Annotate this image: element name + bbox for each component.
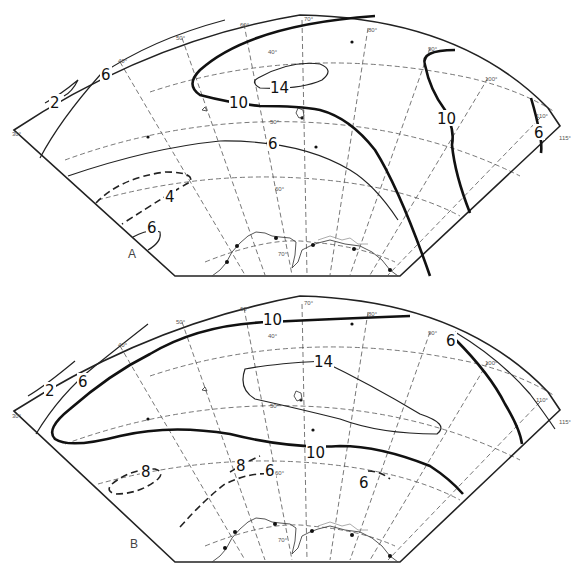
lon-label-60: 60° xyxy=(240,22,250,28)
lon-label-115: 115° xyxy=(559,135,572,141)
isoline-label-6: 6 xyxy=(147,219,157,237)
longitude-grid xyxy=(120,20,540,275)
island xyxy=(296,108,304,118)
isolines xyxy=(40,16,541,276)
lon-label-115: 115° xyxy=(559,419,572,425)
map-panel-b: 2 6 10 14 10 6 8 8 6 6 40° 50° 60° 70° 8… xyxy=(0,284,580,569)
coastline xyxy=(212,232,398,276)
lon-label-70: 70° xyxy=(304,300,314,306)
isoline-label-10: 10 xyxy=(306,444,325,462)
lon-label-90: 90° xyxy=(428,330,438,336)
isoline-labels: 2 6 10 14 10 6 8 8 6 6 xyxy=(44,311,457,492)
lon-label-50: 50° xyxy=(176,319,186,325)
isoline-label-6: 6 xyxy=(101,66,111,84)
lat-label-50: 50° xyxy=(270,403,280,409)
map-a-svg: 2 6 10 14 10 6 6 4 6 40° 50° 60° 70° 80°… xyxy=(0,0,580,284)
lon-label-80: 80° xyxy=(368,311,378,317)
lon-label-70: 70° xyxy=(304,16,314,22)
isoline-label-6: 6 xyxy=(534,124,544,142)
lon-label-110: 110° xyxy=(536,397,549,403)
isoline-label-10: 10 xyxy=(263,311,282,329)
lon-label-90: 90° xyxy=(428,46,438,52)
isoline-label-8: 8 xyxy=(141,463,151,481)
isoline-label-10: 10 xyxy=(229,94,248,112)
map-panel-a: 2 6 10 14 10 6 6 4 6 40° 50° 60° 70° 80°… xyxy=(0,0,580,284)
isoline-label-14: 14 xyxy=(314,353,333,371)
lon-label-30: 30° xyxy=(12,131,22,137)
isoline-label-10: 10 xyxy=(437,110,456,128)
isoline-label-6: 6 xyxy=(446,332,456,350)
lon-label-110: 110° xyxy=(536,113,549,119)
map-frame xyxy=(14,296,560,562)
lat-label-60: 60° xyxy=(275,470,285,476)
island xyxy=(294,391,302,401)
lat-label-70: 70° xyxy=(278,537,288,543)
isoline-label-6: 6 xyxy=(265,462,275,480)
map-b-svg: 2 6 10 14 10 6 8 8 6 6 40° 50° 60° 70° 8… xyxy=(0,284,580,569)
lon-label-40: 40° xyxy=(118,58,128,64)
isoline-label-6: 6 xyxy=(268,135,278,153)
isoline-label-6: 6 xyxy=(78,373,88,391)
panel-label-a: A xyxy=(128,247,136,261)
isoline-label-2: 2 xyxy=(50,94,60,112)
stations xyxy=(146,40,392,272)
lon-label-60: 60° xyxy=(240,306,250,312)
lon-label-50: 50° xyxy=(176,35,186,41)
panel-label-b: B xyxy=(130,537,138,551)
lat-label-70: 70° xyxy=(278,251,288,257)
lat-label-60: 60° xyxy=(275,186,285,192)
isoline-label-6: 6 xyxy=(359,474,369,492)
lon-label-40: 40° xyxy=(118,342,128,348)
grid-labels: 40° 50° 60° 70° 80° 90° 100° 110° 115° 3… xyxy=(12,300,572,543)
lon-label-100: 100° xyxy=(485,360,498,366)
grid-labels: 40° 50° 60° 70° 80° 90° 100° 110° 115° 3… xyxy=(12,16,572,257)
isoline-label-2: 2 xyxy=(45,382,55,400)
island-small xyxy=(202,387,207,391)
lon-label-30: 30° xyxy=(12,413,22,419)
lat-label-40: 40° xyxy=(268,49,278,55)
lon-label-80: 80° xyxy=(368,27,378,33)
isoline-label-14: 14 xyxy=(270,79,289,97)
isoline-label-8: 8 xyxy=(236,457,246,475)
lon-label-100: 100° xyxy=(485,76,498,82)
map-frame xyxy=(14,15,560,276)
coastline xyxy=(212,518,398,562)
lat-label-40: 40° xyxy=(268,333,278,339)
isoline-label-4: 4 xyxy=(165,188,175,206)
isolines xyxy=(28,316,555,527)
longitude-grid xyxy=(120,304,540,560)
lat-label-50: 50° xyxy=(270,119,280,125)
